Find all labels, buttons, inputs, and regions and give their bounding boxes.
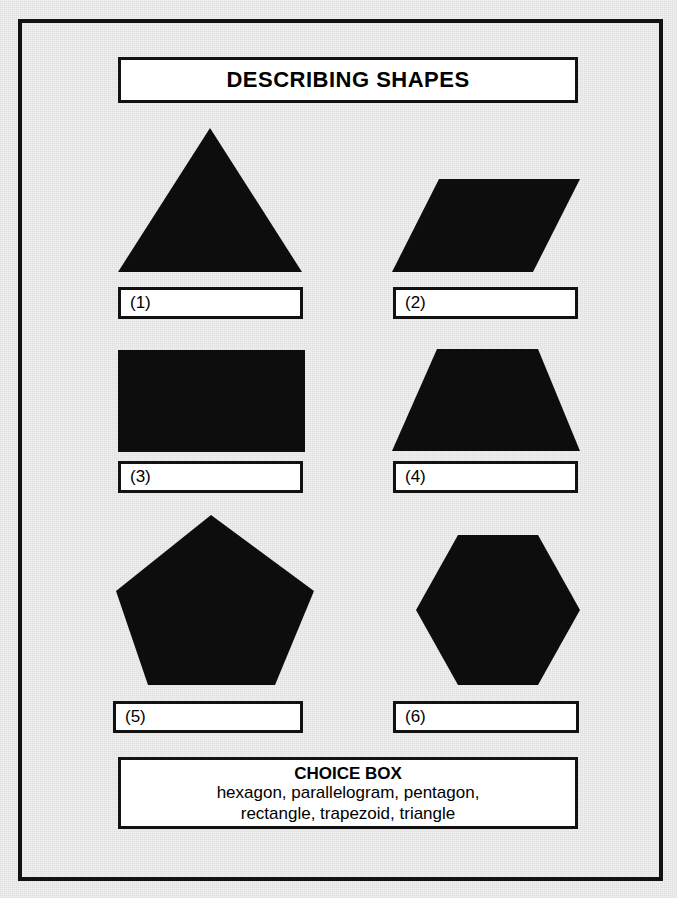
page-title: DESCRIBING SHAPES [226, 67, 469, 93]
answer-box-6[interactable]: (6) [393, 701, 579, 733]
answer-label-1: (1) [121, 293, 151, 313]
choice-box-title: CHOICE BOX [294, 764, 402, 784]
triangle-shape [114, 124, 306, 276]
parallelogram-shape [388, 176, 584, 276]
answer-label-5: (5) [116, 707, 146, 727]
answer-label-6: (6) [396, 707, 426, 727]
rectangle-shape [116, 348, 307, 454]
answer-label-3: (3) [121, 467, 151, 487]
worksheet-page: DESCRIBING SHAPES (1) (2) (3) (4) (5) [0, 0, 677, 898]
answer-box-4[interactable]: (4) [393, 461, 578, 493]
answer-box-5[interactable]: (5) [113, 701, 303, 733]
answer-box-3[interactable]: (3) [118, 461, 303, 493]
answer-box-1[interactable]: (1) [118, 287, 303, 319]
pentagon-shape [112, 511, 318, 689]
answer-box-2[interactable]: (2) [393, 287, 578, 319]
title-box: DESCRIBING SHAPES [118, 57, 578, 103]
choice-box: CHOICE BOX hexagon, parallelogram, penta… [118, 757, 578, 829]
choice-box-line-1: hexagon, parallelogram, pentagon, [217, 783, 480, 803]
choice-box-line-2: rectangle, trapezoid, triangle [241, 804, 456, 824]
trapezoid-shape [388, 346, 584, 454]
hexagon-shape [412, 531, 584, 689]
answer-label-4: (4) [396, 467, 426, 487]
answer-label-2: (2) [396, 293, 426, 313]
